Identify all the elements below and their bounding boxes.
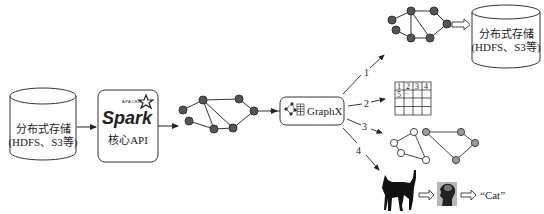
brain-head-icon: [437, 182, 457, 206]
branch-1-number: 1: [364, 67, 369, 78]
source-storage-sublabel: (HDFS、S3等): [8, 135, 77, 149]
source-storage-cylinder: 分布式存储 (HDFS、S3等): [8, 88, 77, 160]
target-storage-cylinder: 分布式存储 (HDFS、S3等): [471, 5, 540, 68]
source-storage-label: 分布式存储: [16, 122, 71, 135]
output-cat-label: “Cat”: [480, 189, 505, 201]
graphx-box: GraphX: [280, 97, 344, 125]
target-storage-sublabel: (HDFS、S3等): [471, 40, 540, 54]
branch-2-number: 2: [364, 98, 369, 109]
graphx-label: GraphX: [307, 105, 342, 117]
hollow-arrow-to-storage: [452, 19, 470, 30]
spark-core-api-label: 核心API: [108, 133, 148, 146]
table-header-4: 4: [424, 82, 428, 91]
spark-logo-text: Spark: [102, 108, 153, 128]
branch-3-number: 3: [362, 121, 367, 132]
branch-2: 2: [348, 98, 385, 109]
output-table: 1 2 3 4 5 ···: [395, 82, 431, 115]
branch-3: 3: [347, 119, 382, 133]
input-graph: [179, 95, 284, 133]
spark-core-box: APACHE Spark 核心API: [98, 90, 158, 162]
table-header-3: 3: [415, 82, 419, 91]
branch-1: 1: [343, 55, 384, 94]
output-graph-3: [390, 128, 478, 163]
hollow-arrow-cat-to-brain: [419, 190, 434, 200]
output-graph-1: [388, 7, 451, 42]
hollow-arrow-brain-to-label: [461, 190, 476, 200]
table-ellipsis: ···: [403, 91, 409, 97]
branch-4-number: 4: [356, 145, 361, 156]
table-cell-5: 5: [397, 90, 401, 99]
table-header-2: 2: [406, 82, 410, 91]
branch-4: 4: [343, 128, 379, 170]
target-storage-label: 分布式存储: [479, 27, 534, 40]
cat-silhouette-icon: [382, 170, 416, 211]
